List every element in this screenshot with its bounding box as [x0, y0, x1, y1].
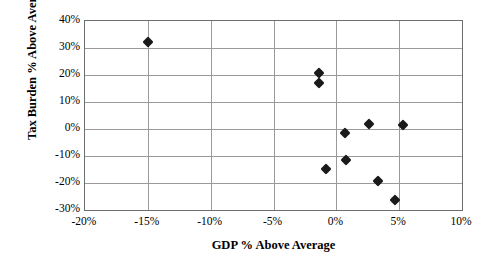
- y-axis-tick-label: 40%: [34, 14, 80, 26]
- gridline-vertical: [211, 21, 212, 210]
- x-axis-tick-label: -20%: [72, 216, 97, 228]
- y-axis-tick-label: 0%: [34, 122, 80, 134]
- x-axis-tick-label: 0%: [328, 216, 343, 228]
- x-axis-tick-labels: -20%-15%-10%-5%0%5%10%: [84, 216, 463, 232]
- y-axis-tick-label: -10%: [34, 149, 80, 161]
- scatter-chart: Tax Burden % Above Average 40%30%20%10%0…: [0, 0, 494, 266]
- gridline-vertical: [274, 21, 275, 210]
- x-axis-tick-label: -5%: [263, 216, 282, 228]
- x-axis-tick-label: -15%: [134, 216, 159, 228]
- y-axis-tick-label: 20%: [34, 68, 80, 80]
- y-axis-tick-label: 10%: [34, 95, 80, 107]
- data-point: [142, 36, 153, 47]
- x-axis-tick-label: 5%: [390, 216, 405, 228]
- y-axis-tick-label: -30%: [34, 203, 80, 215]
- x-axis-tick-label: -10%: [197, 216, 222, 228]
- data-point: [313, 77, 324, 88]
- y-axis-tick-labels: 40%30%20%10%0%-10%-20%-30%: [30, 20, 80, 211]
- x-axis-tick-label: 10%: [450, 216, 471, 228]
- y-axis-tick-label: 30%: [34, 41, 80, 53]
- data-point: [321, 163, 332, 174]
- plot-area: [84, 20, 463, 211]
- gridline-vertical: [399, 21, 400, 210]
- x-axis-title: GDP % Above Average: [84, 238, 463, 253]
- y-axis-tick-label: -20%: [34, 176, 80, 188]
- data-point: [372, 175, 383, 186]
- gridline-vertical: [336, 21, 337, 210]
- gridline-vertical: [148, 21, 149, 210]
